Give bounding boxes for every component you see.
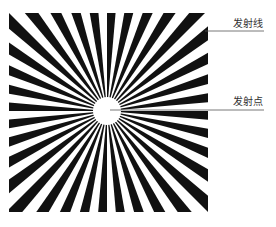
radial-burst-diagram xyxy=(0,0,276,227)
emission-point-disc xyxy=(93,97,121,125)
label-emission-point: 发射点 xyxy=(233,96,263,108)
rays xyxy=(0,0,276,227)
label-emission-line: 发射线 xyxy=(233,18,263,30)
